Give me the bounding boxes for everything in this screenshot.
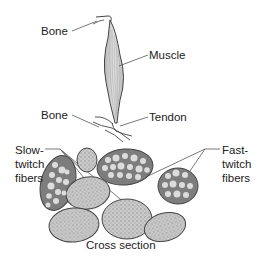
bottom-bone [93, 117, 132, 142]
label-bone-top: Bone [41, 24, 68, 38]
top-bone [93, 16, 111, 25]
label-bone-bottom: Bone [41, 108, 68, 122]
cross-section [34, 147, 198, 246]
label-slow-twitch-fibers: Slow- twitch fibers [15, 143, 44, 185]
label-fast-twitch-fibers: Fast- twitch fibers [222, 143, 251, 185]
label-cross-section: Cross section [86, 238, 156, 252]
label-muscle: Muscle [149, 48, 185, 62]
muscle-diagram [0, 0, 265, 263]
slow-fiber [77, 148, 97, 172]
label-tendon: Tendon [149, 110, 187, 124]
